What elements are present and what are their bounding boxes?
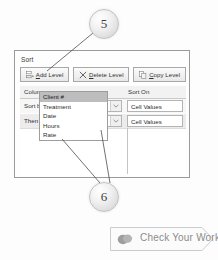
coins-icon [117, 233, 134, 245]
column-dropdown-list[interactable]: Client # Treatment Date Hours Rate [39, 91, 108, 141]
sort-by-sort-on-combo[interactable]: Cell Values [127, 100, 183, 112]
add-level-label: Add Level [36, 72, 64, 78]
list-item[interactable]: Client # [40, 92, 107, 102]
dialog-title: Sort [21, 56, 33, 63]
callout-number: 6 [101, 189, 108, 205]
list-item[interactable]: Date [40, 111, 107, 121]
copy-level-button[interactable]: Copy Level [133, 67, 186, 82]
callout-badge-5: 5 [89, 9, 119, 39]
add-level-button[interactable]: Add Level [20, 67, 69, 82]
list-item[interactable]: Treatment [40, 102, 107, 112]
list-item[interactable]: Rate [40, 130, 107, 140]
chevron-down-icon[interactable] [110, 101, 121, 111]
page-canvas: Sort Add Level Delete Level [0, 0, 218, 260]
copy-level-label: Copy Level [149, 72, 180, 78]
list-item[interactable]: Hours [40, 121, 107, 131]
header-sort-on: Sort On [128, 88, 149, 95]
delete-level-label: Delete Level [89, 72, 124, 78]
delete-level-button[interactable]: Delete Level [73, 67, 129, 82]
check-your-work-banner: Check Your Work [110, 227, 214, 251]
grid-column-divider [127, 128, 128, 174]
chevron-down-icon[interactable] [110, 116, 121, 126]
then-by-sort-on-combo[interactable]: Cell Values [127, 115, 183, 127]
x-mark-icon [79, 71, 87, 79]
banner-label: Check Your Work [140, 232, 218, 243]
sort-by-sort-on-value: Cell Values [131, 103, 162, 110]
insert-row-icon [26, 71, 34, 79]
copy-icon [139, 71, 147, 79]
callout-number: 5 [101, 16, 108, 32]
then-by-sort-on-value: Cell Values [131, 118, 162, 125]
dialog-toolbar: Add Level Delete Level Copy Level [20, 67, 186, 82]
callout-badge-6: 6 [89, 182, 119, 212]
